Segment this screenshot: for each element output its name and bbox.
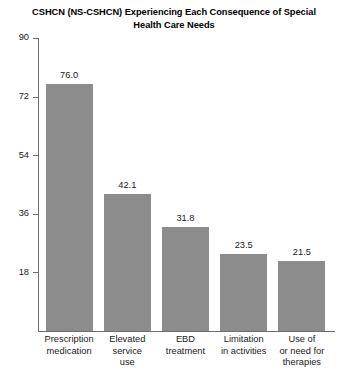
- bar: [220, 254, 267, 331]
- x-axis-category-line: EBD: [155, 334, 215, 346]
- bar-value-label: 31.8: [176, 214, 194, 223]
- bar-value-label: 76.0: [60, 71, 78, 80]
- bar-value-label: 23.5: [235, 241, 253, 250]
- x-axis-category-line: medication: [39, 346, 99, 358]
- x-axis-category-line: Use of: [272, 334, 332, 346]
- x-axis-category-label: Limitationin activities: [214, 334, 274, 357]
- x-axis-category-line: Limitation: [214, 334, 274, 346]
- bar-value-label: 42.1: [118, 181, 136, 190]
- x-axis-category-line: in activities: [214, 346, 274, 358]
- bar: [46, 84, 93, 331]
- x-axis-category-line: therapies: [272, 357, 332, 369]
- x-axis-category-line: or need for: [272, 346, 332, 358]
- bars-layer: 76.042.131.823.521.5: [0, 0, 346, 331]
- x-axis-category-label: Elevatedserviceuse: [97, 334, 157, 369]
- x-axis-category-line: Prescription: [39, 334, 99, 346]
- bar-chart: CSHCN (NS-CSHCN) Experiencing Each Conse…: [0, 0, 346, 386]
- x-axis-line: [38, 331, 335, 332]
- x-axis-category-label: Prescriptionmedication: [39, 334, 99, 357]
- x-axis-category-label: Use ofor need fortherapies: [272, 334, 332, 369]
- bar: [162, 227, 209, 331]
- x-axis-category-label: EBDtreatment: [155, 334, 215, 357]
- bar-value-label: 21.5: [293, 248, 311, 257]
- x-axis-category-line: treatment: [155, 346, 215, 358]
- x-axis-labels: PrescriptionmedicationElevatedserviceuse…: [0, 334, 346, 386]
- x-axis-category-line: use: [97, 357, 157, 369]
- x-axis-category-line: Elevated: [97, 334, 157, 346]
- x-axis-category-line: service: [97, 346, 157, 358]
- bar: [104, 194, 151, 331]
- bar: [278, 261, 325, 331]
